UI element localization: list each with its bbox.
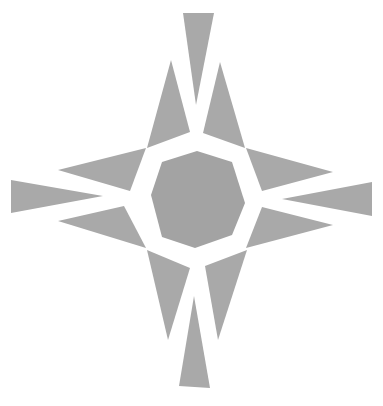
lower-right-side-shape: [246, 207, 333, 248]
compass-star-icon: [0, 0, 383, 406]
lower-right-bottom-shape: [205, 250, 247, 340]
upper-right-top-shape: [203, 62, 245, 148]
bottom-spike-shape: [179, 296, 210, 388]
left-spike-shape: [11, 180, 103, 213]
upper-right-side-shape: [246, 148, 333, 191]
lower-left-bottom-shape: [147, 250, 190, 340]
top-spike-shape: [183, 13, 214, 105]
right-spike-shape: [282, 182, 372, 216]
upper-left-top-shape: [147, 60, 190, 148]
center-octagon-shape: [151, 151, 245, 248]
emblem-canvas: [0, 0, 383, 406]
lower-left-side-shape: [58, 206, 146, 248]
upper-left-side-shape: [58, 148, 146, 191]
